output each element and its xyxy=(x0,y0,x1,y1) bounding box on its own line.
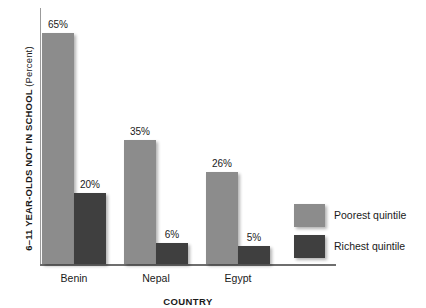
category-label-benin: Benin xyxy=(28,272,120,284)
plot-area: 65%20%35%6%26%5% BeninNepalEgypt COUNTRY xyxy=(40,8,336,265)
bar-benin-richest xyxy=(74,193,106,264)
legend-label-poorest: Poorest quintile xyxy=(334,209,406,221)
y-axis-title: 6–11 YEAR-OLDS NOT IN SCHOOL (Percent) xyxy=(17,28,39,268)
legend-label-richest: Richest quintile xyxy=(334,240,405,252)
y-axis-line xyxy=(40,8,41,265)
bar-value-label: 6% xyxy=(150,229,194,240)
category-label-egypt: Egypt xyxy=(192,272,284,284)
x-axis-line xyxy=(40,264,336,266)
bar-value-label: 20% xyxy=(68,179,112,190)
bar-benin-poorest xyxy=(42,33,74,264)
bar-egypt-poorest xyxy=(206,172,238,264)
bar-egypt-richest xyxy=(238,246,270,264)
category-label-nepal: Nepal xyxy=(110,272,202,284)
x-axis-title: COUNTRY xyxy=(40,296,336,307)
bar-value-label: 5% xyxy=(232,232,276,243)
legend-swatch-poorest-icon xyxy=(294,204,325,227)
bar-value-label: 26% xyxy=(200,158,244,169)
bar-value-label: 35% xyxy=(118,126,162,137)
bar-chart: 6–11 YEAR-OLDS NOT IN SCHOOL (Percent) 6… xyxy=(0,0,426,308)
y-axis-title-text: 6–11 YEAR-OLDS NOT IN SCHOOL xyxy=(23,89,34,250)
bar-nepal-richest xyxy=(156,243,188,264)
legend-swatch-richest-icon xyxy=(294,235,325,258)
bar-value-label: 65% xyxy=(36,19,80,30)
y-axis-unit-text: (Percent) xyxy=(23,46,34,86)
bar-nepal-poorest xyxy=(124,140,156,264)
